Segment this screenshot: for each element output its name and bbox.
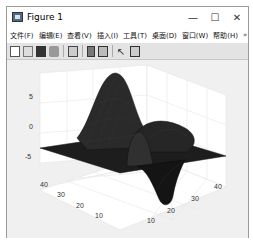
minimize-button[interactable]: —	[182, 7, 204, 27]
menu-help[interactable]: 帮助(H)	[213, 30, 238, 40]
menu-view[interactable]: 查看(V)	[67, 30, 91, 40]
y-tick-label: 40	[40, 181, 48, 188]
print-icon[interactable]	[49, 46, 59, 57]
figure-window: Figure 1 — ☐ ✕ 文件(F) 编辑(E) 查看(V) 插入(I) 工…	[6, 6, 249, 238]
toolbar-separator	[63, 45, 64, 57]
zoom-icon[interactable]	[68, 46, 78, 57]
menu-insert[interactable]: 插入(I)	[97, 30, 119, 40]
menu-tools[interactable]: 工具(T)	[123, 30, 147, 40]
menu-overflow-icon[interactable]: »	[243, 31, 247, 39]
menu-bar: 文件(F) 编辑(E) 查看(V) 插入(I) 工具(T) 桌面(D) 窗口(W…	[7, 27, 248, 43]
figure-toolbar: ↖	[7, 43, 248, 60]
y-tick-label: 30	[57, 191, 65, 198]
menu-edit[interactable]: 编辑(E)	[39, 30, 63, 40]
toolbar-separator	[82, 45, 83, 57]
plot-area[interactable]: 5 0 -5 40 30 20 10 10 20 30 40	[7, 60, 248, 238]
menu-desktop[interactable]: 桌面(D)	[152, 30, 177, 40]
insert-legend-icon[interactable]	[98, 46, 108, 57]
open-file-icon[interactable]	[23, 46, 33, 57]
z-tick-label: 0	[29, 123, 33, 130]
save-icon[interactable]	[36, 46, 46, 57]
insert-colorbar-icon[interactable]	[87, 46, 95, 57]
x-tick-label: 30	[191, 195, 199, 202]
x-tick-label: 10	[147, 217, 155, 224]
toolbar-separator	[112, 45, 113, 57]
surface-plot[interactable]: 5 0 -5 40 30 20 10 10 20 30 40	[7, 60, 248, 238]
property-inspector-icon[interactable]	[130, 46, 140, 57]
matlab-figure-icon	[12, 12, 23, 22]
title-bar[interactable]: Figure 1 — ☐ ✕	[7, 7, 248, 27]
edit-plot-arrow-icon[interactable]: ↖	[117, 46, 127, 57]
x-tick-label: 40	[214, 183, 222, 190]
z-tick-label: -5	[25, 153, 31, 160]
y-tick-label: 10	[95, 212, 103, 219]
new-figure-icon[interactable]	[10, 46, 20, 57]
maximize-button[interactable]: ☐	[204, 7, 226, 27]
menu-file[interactable]: 文件(F)	[10, 30, 34, 40]
window-title: Figure 1	[27, 12, 63, 22]
z-tick-label: 5	[29, 93, 33, 100]
menu-window[interactable]: 窗口(W)	[182, 30, 208, 40]
x-tick-label: 20	[167, 207, 175, 214]
close-button[interactable]: ✕	[226, 7, 248, 27]
y-tick-label: 20	[76, 202, 84, 209]
